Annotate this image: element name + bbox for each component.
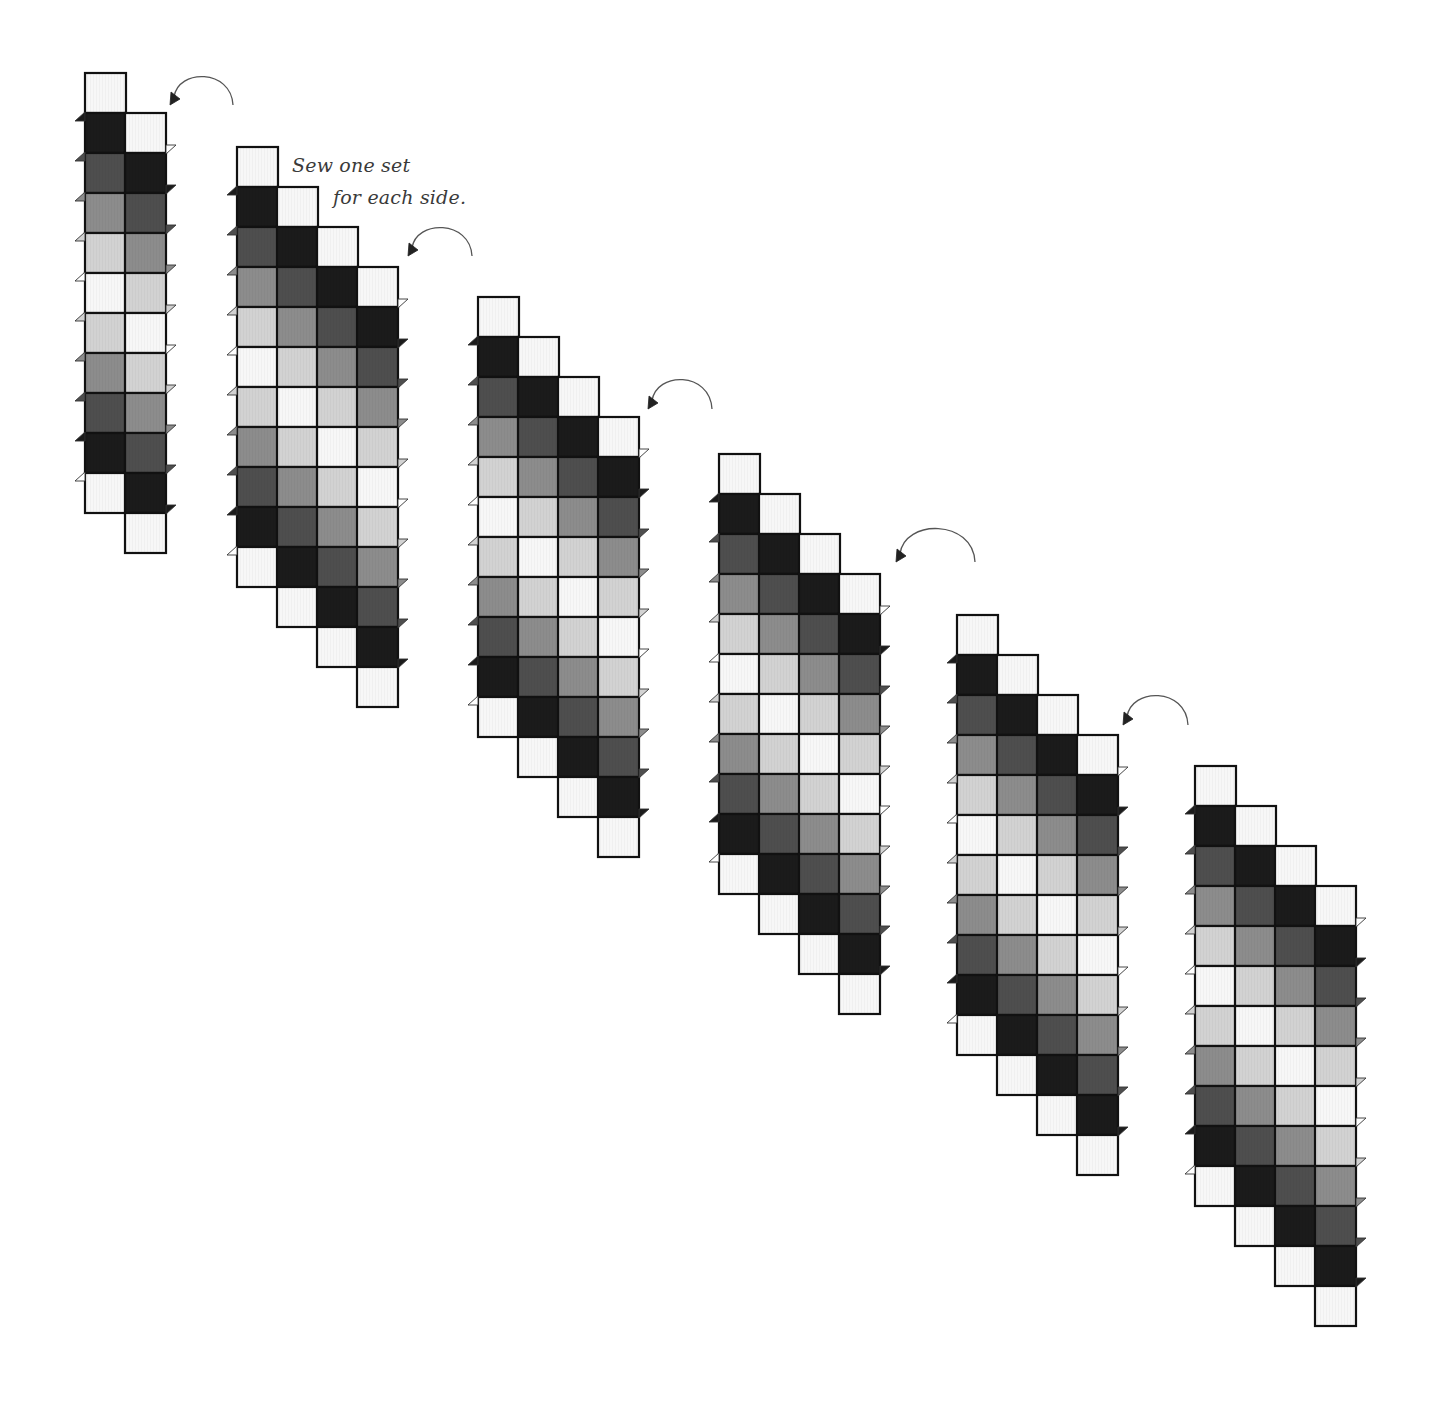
seam-marker-right [1356, 1158, 1366, 1167]
fabric-square [997, 1015, 1038, 1055]
fabric-square [357, 347, 398, 387]
fabric-square [518, 337, 559, 377]
fabric-square [357, 427, 398, 467]
strip-column [957, 615, 998, 1055]
seam-marker-right [639, 529, 649, 538]
fabric-square [125, 193, 166, 233]
seam-marker-right [1118, 767, 1128, 776]
seam-marker-left [227, 266, 237, 275]
strip-column [1037, 695, 1078, 1135]
fabric-square [957, 895, 998, 935]
seam-marker-right [880, 606, 890, 615]
fabric-square [1195, 1166, 1236, 1206]
fabric-square [237, 507, 278, 547]
fabric-square [478, 697, 519, 737]
seam-marker-right [398, 499, 408, 508]
fabric-square [1037, 975, 1078, 1015]
fabric-square [558, 457, 599, 497]
seam-marker-right [166, 225, 176, 234]
fabric-square [1235, 1206, 1276, 1246]
seam-marker-left [947, 1014, 957, 1023]
seam-marker-left [75, 392, 85, 401]
seam-marker-left [1185, 885, 1195, 894]
fabric-square [237, 387, 278, 427]
fabric-square [598, 537, 639, 577]
fabric-square [237, 347, 278, 387]
seam-marker-right [166, 425, 176, 434]
fabric-square [1037, 695, 1078, 735]
fabric-square [1235, 1046, 1276, 1086]
fabric-square [277, 227, 318, 267]
fabric-square [839, 934, 880, 974]
fabric-square [357, 587, 398, 627]
strip-set-5 [947, 615, 1128, 1175]
fabric-square [719, 694, 760, 734]
seam-marker-left [709, 853, 719, 862]
fabric-square [277, 587, 318, 627]
seam-marker-left [75, 192, 85, 201]
seam-marker-left [468, 416, 478, 425]
fabric-square [997, 775, 1038, 815]
fabric-square [1235, 846, 1276, 886]
fabric-square [85, 273, 126, 313]
fabric-square [598, 737, 639, 777]
fabric-square [1235, 886, 1276, 926]
fabric-square [518, 737, 559, 777]
seam-marker-left [947, 734, 957, 743]
fabric-square [85, 313, 126, 353]
rotate-arrow-icon [408, 228, 472, 256]
fabric-square [598, 497, 639, 537]
fabric-square [558, 737, 599, 777]
fabric-square [1315, 1206, 1356, 1246]
fabric-square [518, 697, 559, 737]
fabric-square [719, 814, 760, 854]
seam-marker-right [880, 966, 890, 975]
seam-marker-right [639, 489, 649, 498]
strip-column [839, 574, 880, 1014]
rotate-arrow-icon [1123, 696, 1188, 725]
fabric-square [125, 233, 166, 273]
fabric-square [558, 377, 599, 417]
fabric-square [85, 73, 126, 113]
fabric-square [1077, 1095, 1118, 1135]
fabric-square [277, 547, 318, 587]
strip-set-4 [709, 454, 890, 1014]
fabric-square [125, 313, 166, 353]
fabric-square [237, 147, 278, 187]
fabric-square [719, 654, 760, 694]
fabric-square [1195, 766, 1236, 806]
fabric-square [759, 534, 800, 574]
fabric-square [85, 113, 126, 153]
fabric-square [518, 617, 559, 657]
strip-column [997, 655, 1038, 1095]
fabric-square [518, 577, 559, 617]
fabric-square [799, 534, 840, 574]
fabric-square [277, 307, 318, 347]
seam-marker-right [398, 339, 408, 348]
fabric-square [1037, 735, 1078, 775]
fabric-square [357, 267, 398, 307]
fabric-square [719, 494, 760, 534]
seam-marker-right [639, 649, 649, 658]
rotate-arrow-icon [648, 380, 712, 409]
fabric-square [839, 574, 880, 614]
seam-marker-right [166, 305, 176, 314]
seam-marker-left [468, 456, 478, 465]
seam-marker-right [166, 265, 176, 274]
fabric-square [799, 654, 840, 694]
fabric-square [957, 735, 998, 775]
strip-column [317, 227, 358, 667]
fabric-square [598, 617, 639, 657]
seam-marker-right [639, 449, 649, 458]
fabric-square [1275, 1246, 1316, 1286]
fabric-square [1275, 1046, 1316, 1086]
fabric-square [125, 113, 166, 153]
fabric-square [558, 537, 599, 577]
seam-marker-left [468, 496, 478, 505]
fabric-square [1037, 895, 1078, 935]
fabric-square [598, 457, 639, 497]
fabric-square [957, 655, 998, 695]
fabric-square [85, 393, 126, 433]
seam-marker-left [75, 352, 85, 361]
fabric-square [478, 297, 519, 337]
